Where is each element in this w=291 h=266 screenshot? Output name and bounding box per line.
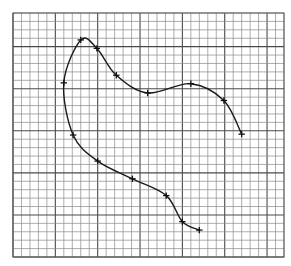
plus-marker-icon — [196, 227, 202, 233]
graph-paper-plot — [0, 0, 291, 266]
plus-marker-icon — [238, 131, 244, 137]
plus-marker-icon — [188, 80, 194, 86]
grid-lines — [13, 13, 284, 257]
data-curve — [64, 38, 242, 230]
plus-marker-icon — [144, 90, 150, 96]
data-markers — [61, 37, 245, 234]
plus-marker-icon — [70, 132, 76, 138]
